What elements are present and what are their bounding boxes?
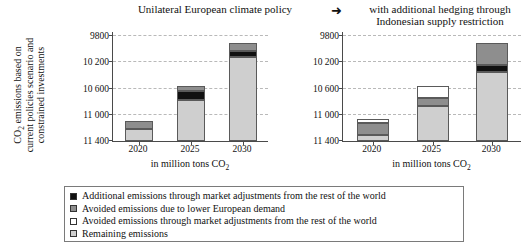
panel-title-right-line1: with additional hedging through — [369, 3, 510, 15]
y-tick-mark — [109, 88, 113, 89]
plot-area-right — [342, 32, 521, 142]
figure-titles: Unilateral European climate policy ➜ wit… — [0, 0, 529, 30]
panel-title-right: with additional hedging through Indonesi… — [355, 3, 525, 27]
legend-label: Avoided emissions through market adjustm… — [82, 215, 377, 227]
bar-segment — [476, 72, 508, 141]
arrow-icon: ➜ — [331, 4, 342, 17]
chart-figure: Unilateral European climate policy ➜ wit… — [0, 0, 529, 250]
x-tick-label-2020: 2020 — [356, 144, 388, 155]
bar-segment — [177, 100, 205, 141]
y-axis-label-line3: constrained investments — [35, 27, 47, 163]
y-tick-mark — [339, 61, 343, 62]
legend-swatch-icon — [70, 218, 77, 225]
y-tick-mark — [339, 35, 343, 36]
legend-swatch-icon — [70, 205, 77, 212]
bar-segment — [417, 106, 449, 141]
bar-2020 — [125, 121, 153, 141]
y-tick-mark — [109, 140, 113, 141]
y-tick-label: 10 200 — [83, 58, 109, 68]
y-tick-label: 11 400 — [83, 137, 109, 147]
legend-item-avoided_demand: Avoided emissions due to lower European … — [70, 203, 458, 216]
bar-2030 — [229, 43, 257, 141]
bar-segment — [125, 129, 153, 141]
bar-segment — [476, 43, 508, 65]
y-tick-mark — [339, 114, 343, 115]
y-tick-mark — [109, 35, 113, 36]
y-tick-mark — [339, 88, 343, 89]
legend: Additional emissions through market adju… — [64, 186, 464, 242]
y-tick-label: 10 600 — [313, 85, 339, 95]
legend-item-remaining: Remaining emissions — [70, 228, 458, 241]
bar-segment — [177, 91, 205, 100]
legend-label: Avoided emissions due to lower European … — [82, 203, 285, 215]
bar-2030 — [476, 43, 508, 141]
x-tick-label-2025: 2025 — [416, 144, 448, 155]
y-tick-label: 11 000 — [83, 111, 109, 121]
x-tick-label-2020: 2020 — [122, 144, 154, 155]
x-axis-label-right: in million tons CO2 — [342, 158, 521, 170]
x-tick-label-2030: 2030 — [475, 144, 507, 155]
plot-area-left — [112, 32, 268, 142]
y-tick-label: 11 000 — [313, 111, 339, 121]
x-tick-labels-right: 202020252030 — [342, 144, 521, 158]
legend-swatch-icon — [70, 193, 77, 200]
legend-label: Additional emissions through market adju… — [82, 190, 386, 202]
chart-panel-left: 11 40011 00010 60010 2009800 20202025203… — [78, 32, 268, 160]
bar-segment — [417, 86, 449, 98]
bar-2025 — [177, 86, 205, 141]
bar-segment — [125, 121, 153, 129]
x-tick-labels-left: 202020252030 — [112, 144, 268, 158]
y-tick-label: 10 200 — [313, 58, 339, 68]
chart-panel-right: 11 40011 00010 60010 2009800 20202025203… — [308, 32, 521, 160]
bar-segment — [229, 43, 257, 52]
x-tick-label-2025: 2025 — [174, 144, 206, 155]
bar-segment — [229, 51, 257, 57]
y-tick-mark — [109, 61, 113, 62]
bar-segment — [177, 86, 205, 91]
legend-swatch-icon — [70, 230, 77, 237]
legend-label: Remaining emissions — [82, 228, 168, 240]
panel-title-right-line2: Indonesian supply restriction — [376, 15, 504, 27]
y-tick-label: 9800 — [320, 32, 339, 42]
x-axis-label-left: in million tons CO2 — [112, 158, 268, 170]
y-tick-label: 11 400 — [313, 137, 339, 147]
y-tick-mark — [339, 140, 343, 141]
y-tick-labels-right: 11 40011 00010 60010 2009800 — [308, 32, 342, 142]
bar-2025 — [417, 86, 449, 141]
y-axis-label-line1: CO2 emissions based on — [12, 27, 24, 163]
y-tick-label: 9800 — [90, 32, 109, 42]
y-axis-label-line2: current policies scenario and — [24, 27, 36, 163]
bar-segment — [417, 98, 449, 107]
y-tick-label: 10 600 — [83, 85, 109, 95]
bar-segment — [357, 123, 389, 135]
legend-item-additional: Additional emissions through market adju… — [70, 190, 458, 203]
gridline — [113, 35, 268, 36]
bar-segment — [357, 119, 389, 124]
x-tick-label-2030: 2030 — [226, 144, 258, 155]
bar-segment — [476, 65, 508, 72]
legend-item-avoided_market: Avoided emissions through market adjustm… — [70, 215, 458, 228]
gridline — [343, 35, 521, 36]
y-tick-labels-left: 11 40011 00010 60010 2009800 — [78, 32, 112, 142]
bar-2020 — [357, 119, 389, 141]
y-tick-mark — [109, 114, 113, 115]
bar-segment — [229, 57, 257, 141]
panel-title-left: Unilateral European climate policy — [110, 3, 320, 16]
